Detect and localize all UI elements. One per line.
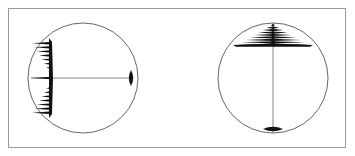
spindle-icon (263, 127, 283, 131)
right-circle-panel (218, 23, 328, 133)
fringe-fan-icon (31, 38, 53, 118)
spindle-icon (129, 70, 133, 86)
diffraction-diagram (0, 0, 355, 156)
fringe-fan-icon (233, 24, 313, 47)
left-circle-panel (28, 23, 138, 133)
